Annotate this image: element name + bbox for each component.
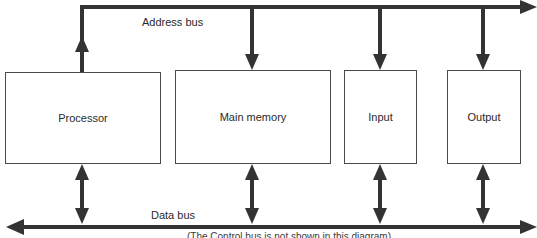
memory-data-arrow-icon	[245, 164, 259, 224]
processor-label: Processor	[58, 112, 108, 124]
main-memory-box: Main memory	[175, 70, 331, 164]
data-bus-label: Data bus	[151, 209, 195, 221]
input-data-arrow-icon	[373, 164, 387, 224]
processor-data-arrow-icon	[75, 164, 89, 224]
input-box: Input	[344, 70, 417, 164]
data-bus	[6, 164, 537, 235]
input-label: Input	[368, 111, 392, 123]
data-bus-arrow-right-icon	[520, 220, 537, 234]
arrow-down-icon	[476, 54, 490, 70]
arrow-down-icon	[373, 54, 387, 70]
output-label: Output	[467, 111, 500, 123]
output-box: Output	[447, 70, 521, 164]
arrow-up-icon	[75, 36, 89, 52]
processor-box: Processor	[5, 72, 161, 164]
footnote: (The Control bus is not shown in this di…	[187, 231, 391, 238]
output-data-arrow-icon	[476, 164, 490, 224]
data-bus-arrow-left-icon	[6, 219, 24, 235]
main-memory-label: Main memory	[220, 111, 287, 123]
address-bus-arrow-right-icon	[520, 0, 537, 14]
address-bus-label: Address bus	[142, 16, 203, 28]
arrow-down-icon	[245, 54, 259, 70]
address-bus	[75, 0, 537, 72]
